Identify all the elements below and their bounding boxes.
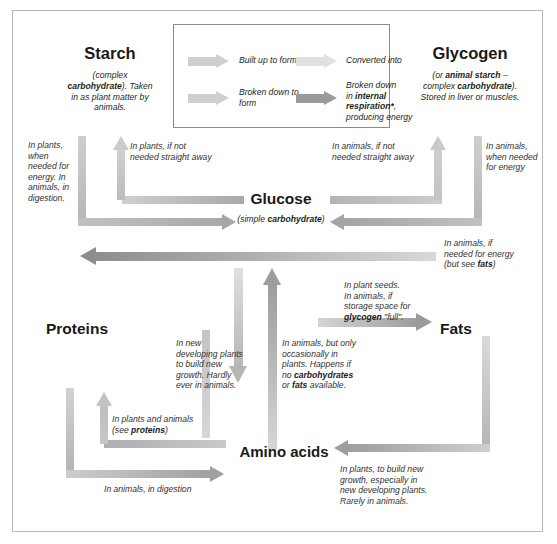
legend-label-respiration: Broken down in internal respiration*, pr… bbox=[346, 80, 432, 122]
annotation-amino-to-glucose: In animals, but only occasionally in pla… bbox=[282, 338, 386, 391]
arrow-proteins-to-amino-horizontal bbox=[66, 470, 212, 478]
arrow-glucose-to-glycogen-vertical bbox=[434, 148, 442, 200]
atg-line5: or bbox=[282, 380, 292, 390]
annotation-glycogen-to-glucose: In animals, when needed for energy bbox=[486, 141, 548, 173]
arrow-amino-to-proteins-horizontal bbox=[104, 440, 226, 448]
annotation-glucose-to-fats-right: In animals, if needed for energy (but se… bbox=[444, 238, 544, 270]
legend-resp-line4: producing energy bbox=[346, 112, 412, 122]
gfr-line3b: ) bbox=[493, 259, 496, 269]
arrow-glucose-to-starch-head bbox=[113, 136, 129, 150]
annotation-proteins-amino-note: In plants and animals (see proteins) bbox=[112, 414, 238, 435]
gfr-line2: needed for energy bbox=[444, 249, 514, 259]
arrow-amino-to-glucose-head bbox=[263, 268, 281, 285]
gfr-line3: (but see bbox=[444, 259, 477, 269]
starch-sub-bold: carbohydrate bbox=[67, 81, 121, 91]
annotation-proteins-to-amino: In animals, in digestion bbox=[104, 484, 254, 495]
node-title-glucose: Glucose bbox=[218, 190, 344, 208]
atg-line1: In animals, but only bbox=[282, 338, 356, 348]
node-sub-starch: (complex carbohydrate). Taken in as plan… bbox=[28, 70, 192, 113]
glucose-sub-pre: (simple bbox=[237, 214, 267, 224]
gtf-line2: In animals, if bbox=[344, 291, 392, 301]
arrow-amino-to-proteins-head bbox=[96, 392, 112, 406]
glycogen-sub-line1-post: – bbox=[501, 70, 508, 80]
arrow-glucose-to-proteins-long-head bbox=[80, 247, 96, 265]
arrow-proteins-to-amino-vertical bbox=[66, 388, 74, 476]
gtf-line3: storage space for bbox=[344, 301, 410, 311]
node-sub-glucose: (simple carbohydrate) bbox=[206, 214, 356, 225]
annotation-amino-to-proteins: In new developing plants to build new gr… bbox=[176, 338, 258, 391]
pan-line1: In plants and animals bbox=[112, 414, 193, 424]
legend-resp-line2-bold: internal bbox=[355, 91, 386, 101]
legend-arrow-built-up bbox=[188, 54, 232, 67]
node-title-proteins: Proteins bbox=[46, 320, 166, 338]
arrow-glucose-to-proteins-long-horizontal bbox=[96, 252, 436, 261]
gfr-line1: In animals, if bbox=[444, 238, 492, 248]
legend-arrow-broken-down bbox=[188, 91, 232, 104]
node-title-amino-acids: Amino acids bbox=[222, 443, 346, 460]
annotation-fats-to-amino: In plants, to build new growth, especial… bbox=[340, 464, 470, 506]
glycogen-sub-line1-bold: animal starch bbox=[445, 70, 500, 80]
legend-arrow-respiration bbox=[296, 91, 340, 104]
legend-resp-line3-bold: respiration* bbox=[346, 101, 394, 111]
arrow-amino-to-proteins-vertical bbox=[100, 404, 108, 444]
pan-line2: (see bbox=[112, 425, 131, 435]
starch-sub-line3: in as plant matter by bbox=[71, 92, 148, 102]
gtf-line1: In plant seeds. bbox=[344, 280, 400, 290]
diagram-page: Built up to form Converted into Broken d… bbox=[0, 0, 557, 544]
starch-sub-line2-post: ). Taken bbox=[122, 81, 153, 91]
legend-label-converted-into: Converted into bbox=[346, 55, 426, 66]
annotation-starch-to-glucose-left: In plants, when needed for energy. In an… bbox=[28, 140, 82, 204]
annotation-glucose-to-starch: In plants, if not needed straight away bbox=[130, 141, 226, 162]
legend-resp-line2-pre: in bbox=[346, 91, 355, 101]
glucose-sub-bold: carbohydrate bbox=[267, 214, 321, 224]
gfr-bold-fats: fats bbox=[477, 259, 492, 269]
node-title-starch: Starch bbox=[40, 44, 180, 63]
legend-arrow-converted-into bbox=[296, 54, 340, 67]
arrow-amino-to-glucose-vertical bbox=[268, 284, 277, 450]
atg-line3: plants. Happens if bbox=[282, 359, 351, 369]
arrow-fats-to-amino-vertical bbox=[482, 336, 490, 450]
legend-resp-line1: Broken down bbox=[346, 80, 396, 90]
starch-sub-line1: (complex bbox=[93, 70, 128, 80]
arrow-glucose-to-glycogen-head bbox=[430, 136, 446, 150]
atg-line2: occasionally in bbox=[282, 349, 338, 359]
node-title-fats: Fats bbox=[440, 320, 520, 338]
starch-sub-line4: animals. bbox=[94, 102, 126, 112]
legend-broken-line1: Broken down to form bbox=[239, 87, 299, 108]
arrow-glycogen-to-glucose-vertical bbox=[474, 136, 482, 222]
atg-line4: no bbox=[282, 370, 294, 380]
glycogen-sub-line2-bold: carbohydrate bbox=[457, 81, 511, 91]
arrow-fats-to-amino-horizontal bbox=[348, 444, 490, 452]
legend-resp-line3-post: , bbox=[394, 101, 396, 111]
atg-line5b: available. bbox=[307, 380, 346, 390]
arrow-glucose-to-starch-vertical bbox=[117, 148, 125, 200]
legend-box: Built up to form Converted into Broken d… bbox=[173, 24, 390, 128]
glucose-sub-post: ) bbox=[322, 214, 325, 224]
glycogen-sub-line1-pre: (or bbox=[432, 70, 445, 80]
pan-line2b: ) bbox=[165, 425, 168, 435]
arrow-glucose-to-glycogen-horizontal bbox=[330, 196, 442, 204]
arrow-glycogen-to-glucose-horizontal bbox=[344, 218, 482, 226]
gtf-line4b: "full". bbox=[382, 312, 404, 322]
atg-bold-carbohydrates: carbohydrates bbox=[294, 370, 353, 380]
annotation-glucose-to-glycogen: In animals, if not needed straight away bbox=[332, 141, 432, 162]
arrow-starch-to-glucose-horizontal bbox=[78, 218, 224, 226]
glycogen-sub-line3: Stored in liver or muscles. bbox=[421, 92, 520, 102]
pan-bold-proteins: proteins bbox=[131, 425, 165, 435]
glycogen-sub-line2-post: ). bbox=[512, 81, 517, 91]
atg-bold-fats: fats bbox=[292, 380, 307, 390]
annotation-glucose-to-fats: In plant seeds. In animals, if storage s… bbox=[344, 280, 456, 322]
arrow-proteins-to-amino-head bbox=[210, 466, 224, 482]
gtf-bold-glycogen: glycogen bbox=[344, 312, 382, 322]
